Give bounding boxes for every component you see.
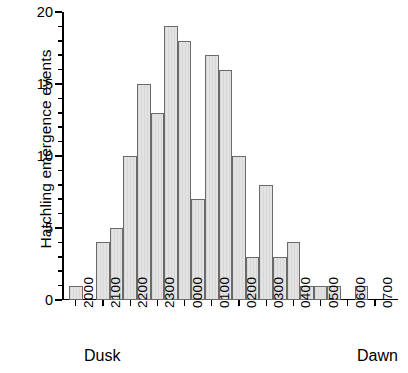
bar [137, 84, 151, 300]
bar-series [62, 12, 398, 300]
x-tick [266, 300, 267, 306]
x-tick-label: 0200 [244, 277, 259, 308]
y-tick-major [55, 11, 62, 13]
y-tick-label: 15 [37, 77, 53, 92]
y-tick-major [55, 83, 62, 85]
x-tick-label: 2100 [108, 277, 123, 308]
y-tick-major [55, 299, 62, 301]
x-tick-label: 0600 [353, 277, 368, 308]
bar [205, 55, 219, 300]
y-tick-label: 0 [45, 293, 53, 308]
x-tick [211, 300, 212, 306]
x-tick [347, 300, 348, 306]
x-tick [102, 300, 103, 306]
x-tick-label: 0000 [190, 277, 205, 308]
x-tick-label: 0100 [217, 277, 232, 308]
x-tick-label: 0300 [271, 277, 286, 308]
bar [219, 70, 233, 300]
chart-figure: Hatchling emergence events 05101520 Dusk… [0, 0, 408, 373]
plot-area: 05101520 [62, 12, 398, 300]
x-tick [75, 300, 76, 306]
y-tick-major [55, 155, 62, 157]
y-tick-major [55, 227, 62, 229]
bar [164, 26, 178, 300]
dawn-annotation: Dawn [357, 347, 398, 365]
dusk-annotation: Dusk [84, 347, 120, 365]
x-tick [130, 300, 131, 306]
x-tick [293, 300, 294, 306]
x-tick-label: 0500 [326, 277, 341, 308]
x-tick-label: 0400 [298, 277, 313, 308]
y-tick-label: 20 [37, 5, 53, 20]
x-tick-label: 0700 [380, 277, 395, 308]
x-tick-label: 2000 [81, 277, 96, 308]
x-tick [157, 300, 158, 306]
x-tick [184, 300, 185, 306]
y-tick-label: 10 [37, 149, 53, 164]
bar [151, 113, 165, 300]
x-tick-label: 2300 [162, 277, 177, 308]
x-tick [320, 300, 321, 306]
y-tick-label: 5 [45, 221, 53, 236]
bar [178, 41, 192, 300]
x-tick-label: 2200 [135, 277, 150, 308]
x-tick [238, 300, 239, 306]
x-tick [374, 300, 375, 306]
